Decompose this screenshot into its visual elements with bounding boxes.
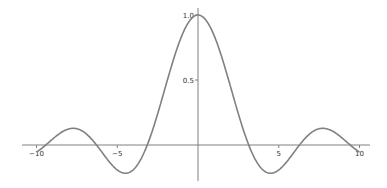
x-tick-label: −5 [112,150,122,158]
y-tick-label: 0.5 [183,77,194,85]
y-axis: 0.51.0 [183,8,198,181]
x-tick-label: 5 [277,150,281,158]
x-axis: −10−5510 [22,145,370,158]
sinc-line-chart: −10−5510 0.51.0 [0,0,387,188]
